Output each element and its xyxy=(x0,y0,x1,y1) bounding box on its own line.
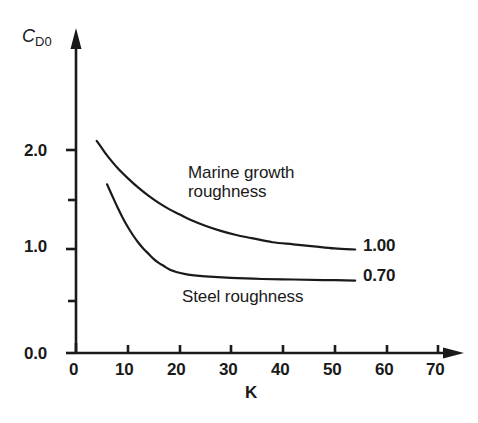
y-tick-label-1: 1.0 xyxy=(24,237,47,256)
y-axis-title: CD0 xyxy=(22,26,52,49)
x-axis-ticks xyxy=(76,343,438,353)
x-axis xyxy=(76,348,464,359)
x-tick-label-40: 40 xyxy=(271,360,290,379)
y-axis-arrow-icon xyxy=(71,28,82,49)
marine-growth-roughness-label: Marine growthroughness xyxy=(188,163,294,201)
x-tick-label-60: 60 xyxy=(375,360,394,379)
x-axis-title: K xyxy=(245,383,257,402)
x-tick-label-20: 20 xyxy=(167,360,186,379)
x-tick-label-50: 50 xyxy=(323,360,342,379)
marine-end-value-label: 1.00 xyxy=(363,236,395,255)
steel-roughness-label: Steel roughness xyxy=(182,287,303,306)
y-axis xyxy=(71,28,82,353)
steel-end-value-label: 0.70 xyxy=(363,266,395,285)
x-tick-label-10: 10 xyxy=(115,360,134,379)
y-tick-label-2: 2.0 xyxy=(24,141,47,160)
y-axis-title-main: C xyxy=(22,26,35,46)
chart-figure: CD0 K 0.0 1.0 2.0 0 10 20 30 40 50 60 70… xyxy=(0,0,478,423)
x-tick-label-0: 0 xyxy=(69,360,78,379)
x-tick-label-70: 70 xyxy=(426,360,445,379)
x-axis-arrow-icon xyxy=(443,348,464,359)
marine-label-line-1: Marine growth xyxy=(188,163,294,182)
y-axis-title-subscript: D0 xyxy=(35,34,52,49)
y-tick-label-0: 0.0 xyxy=(24,344,47,363)
y-axis-major-ticks xyxy=(66,150,76,353)
marine-label-line-2: roughness xyxy=(188,182,267,201)
x-tick-label-30: 30 xyxy=(219,360,238,379)
